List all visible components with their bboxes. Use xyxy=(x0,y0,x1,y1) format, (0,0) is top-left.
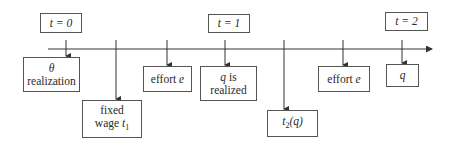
is-text: is xyxy=(226,71,237,83)
e-var: e xyxy=(179,73,184,85)
event-theta-realization: θ realization xyxy=(23,57,80,92)
realization-text: realization xyxy=(27,75,76,88)
t1-text: t = 1 xyxy=(218,17,240,29)
event-effort-2: effort e xyxy=(318,66,370,92)
realized-text: realized xyxy=(210,84,246,97)
q-arg: (q) xyxy=(289,115,302,127)
wage-text: wage xyxy=(95,117,122,129)
e-var: e xyxy=(356,73,361,85)
event-q-final: q xyxy=(386,64,419,87)
event-fixed-wage: fixed wage t1 xyxy=(82,100,142,138)
time-label-t1: t = 1 xyxy=(208,14,250,33)
t-subscript: 1 xyxy=(125,123,129,132)
event-effort-1: effort e xyxy=(143,66,192,92)
fixed-text: fixed xyxy=(100,104,124,117)
effort-text: effort xyxy=(327,73,355,85)
t2-text: t = 2 xyxy=(395,15,417,27)
time-label-t0: t = 0 xyxy=(40,13,82,33)
theta-symbol: θ xyxy=(49,62,55,75)
effort-text: effort xyxy=(151,73,179,85)
t0-text: t = 0 xyxy=(50,17,72,29)
event-t2-of-q: t2(q) xyxy=(267,110,318,137)
time-label-t2: t = 2 xyxy=(385,12,428,31)
timeline-diagram: t = 0 t = 1 t = 2 θ realization fixed wa… xyxy=(0,0,451,145)
event-q-realized: q is realized xyxy=(200,66,257,101)
q-var: q xyxy=(400,69,406,82)
